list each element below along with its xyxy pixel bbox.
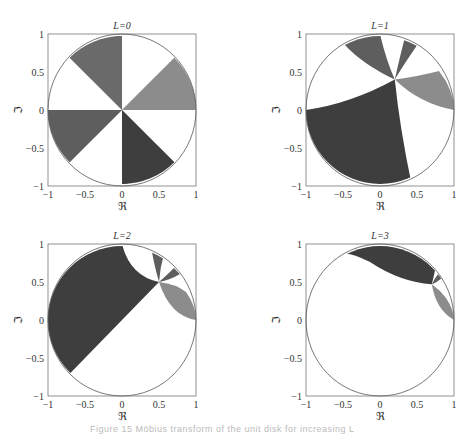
- x-axis-label: ℜ: [118, 410, 127, 422]
- x-axis-label: ℜ: [118, 200, 127, 212]
- svg-text:0: 0: [297, 105, 302, 116]
- x-ticks: −1 −0.5 0 0.5 1: [301, 189, 457, 200]
- panel-title: L=2: [112, 230, 130, 241]
- panel-l2: L=2 −1 −0.5 0 0.5 1 1 0.5 0 −0.5 −1 ℜ ℑ: [12, 230, 199, 422]
- y-ticks: 1 0.5 0 −0.5 −1: [284, 29, 302, 192]
- svg-text:0.5: 0.5: [411, 189, 424, 200]
- svg-text:−1: −1: [301, 399, 312, 410]
- figure-caption: Figure 15 Möbius transform of the unit d…: [90, 424, 355, 434]
- svg-text:1: 1: [194, 189, 199, 200]
- y-ticks: 1 0.5 0 −0.5 −1: [26, 29, 44, 192]
- svg-text:0: 0: [39, 105, 44, 116]
- svg-text:1: 1: [194, 399, 199, 410]
- y-axis-label: ℑ: [12, 316, 24, 324]
- panel-l1: L=1 −1 −0.5 0 0.5 1 1 0.5 0 −0.5 −1: [270, 20, 457, 212]
- figure-canvas: L=0 −1 −0.5 0 0.5 1 1: [0, 0, 471, 435]
- svg-text:1: 1: [297, 29, 302, 40]
- svg-text:−1: −1: [291, 391, 302, 402]
- svg-text:−1: −1: [33, 181, 44, 192]
- svg-text:−0.5: −0.5: [76, 189, 94, 200]
- y-ticks: 1 0.5 0 −0.5 −1: [26, 239, 44, 402]
- svg-text:0: 0: [120, 189, 125, 200]
- svg-text:0: 0: [297, 315, 302, 326]
- svg-text:−0.5: −0.5: [26, 353, 44, 364]
- svg-text:−1: −1: [43, 189, 54, 200]
- y-axis-label: ℑ: [270, 106, 282, 114]
- svg-text:−1: −1: [301, 189, 312, 200]
- svg-text:1: 1: [452, 189, 457, 200]
- svg-text:−1: −1: [33, 391, 44, 402]
- panel-title: L=0: [112, 20, 130, 31]
- svg-text:0.5: 0.5: [32, 67, 45, 78]
- svg-text:0.5: 0.5: [32, 277, 45, 288]
- svg-text:0: 0: [378, 189, 383, 200]
- panel-l3: L=3 −1 −0.5 0 0.5 1 1 0.5 0 −0.5 −1 ℜ ℑ: [270, 230, 457, 422]
- svg-text:−0.5: −0.5: [26, 143, 44, 154]
- svg-text:0.5: 0.5: [153, 189, 166, 200]
- svg-text:−0.5: −0.5: [76, 399, 94, 410]
- panel-l0: L=0 −1 −0.5 0 0.5 1 1: [12, 20, 199, 212]
- svg-text:0: 0: [120, 399, 125, 410]
- svg-text:0.5: 0.5: [290, 67, 303, 78]
- svg-text:−0.5: −0.5: [334, 189, 352, 200]
- y-axis-label: ℑ: [270, 316, 282, 324]
- svg-text:0.5: 0.5: [290, 277, 303, 288]
- x-ticks: −1 −0.5 0 0.5 1: [301, 399, 457, 410]
- y-axis-label: ℑ: [12, 106, 24, 114]
- x-ticks: −1 −0.5 0 0.5 1: [43, 399, 199, 410]
- y-ticks: 1 0.5 0 −0.5 −1: [284, 239, 302, 402]
- svg-text:−0.5: −0.5: [334, 399, 352, 410]
- svg-text:1: 1: [452, 399, 457, 410]
- x-axis-label: ℜ: [376, 410, 385, 422]
- svg-text:−0.5: −0.5: [284, 143, 302, 154]
- x-axis-label: ℜ: [376, 200, 385, 212]
- svg-text:1: 1: [297, 239, 302, 250]
- svg-text:0: 0: [39, 315, 44, 326]
- panel-title: L=3: [370, 230, 388, 241]
- svg-text:0.5: 0.5: [153, 399, 166, 410]
- svg-text:0: 0: [378, 399, 383, 410]
- svg-text:1: 1: [39, 239, 44, 250]
- panel-title: L=1: [370, 20, 388, 31]
- svg-text:−1: −1: [291, 181, 302, 192]
- svg-text:−0.5: −0.5: [284, 353, 302, 364]
- svg-text:−1: −1: [43, 399, 54, 410]
- svg-text:0.5: 0.5: [411, 399, 424, 410]
- svg-text:1: 1: [39, 29, 44, 40]
- x-ticks: −1 −0.5 0 0.5 1: [43, 189, 199, 200]
